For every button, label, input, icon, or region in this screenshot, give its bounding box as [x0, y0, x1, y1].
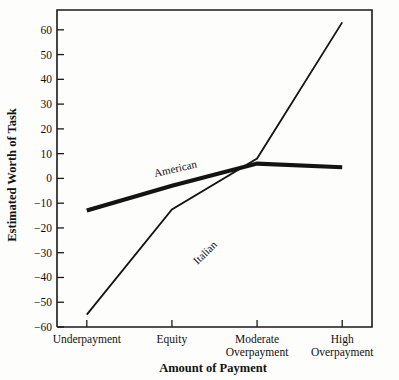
y-tick-label: −20 — [34, 222, 52, 234]
series-group — [87, 22, 342, 314]
y-tick-label: 10 — [41, 148, 53, 160]
y-tick-label: 60 — [41, 24, 53, 36]
y-tick-label: 50 — [41, 49, 53, 61]
y-tick-label: −60 — [34, 321, 52, 333]
category-labels: UnderpaymentEquityModerateOverpaymentHig… — [53, 333, 375, 359]
x-category-label: Equity — [157, 333, 188, 346]
y-tick-label: 40 — [41, 73, 53, 85]
series-line-italian — [87, 22, 342, 314]
series-labels: AmericanItalian — [153, 157, 220, 266]
x-axis-ticks — [87, 320, 342, 327]
y-tick-label: −10 — [34, 197, 52, 209]
x-axis-title: Amount of Payment — [159, 361, 267, 375]
line-chart: −60−50−40−30−20−100102030405060 American… — [0, 0, 399, 380]
x-category-label: Moderate — [235, 333, 279, 345]
y-tick-label: 20 — [41, 123, 53, 135]
series-line-american — [87, 164, 342, 211]
x-category-label: Overpayment — [311, 346, 374, 359]
y-tick-label: −50 — [34, 296, 52, 308]
y-axis-ticks: −60−50−40−30−20−100102030405060 — [34, 24, 64, 333]
y-tick-label: −30 — [34, 247, 52, 259]
series-label-italian: Italian — [191, 238, 220, 266]
y-tick-label: 0 — [46, 172, 52, 184]
figure-container: −60−50−40−30−20−100102030405060 American… — [0, 0, 399, 380]
y-axis-title: Estimated Worth of Task — [5, 108, 19, 242]
series-label-american: American — [153, 157, 198, 179]
x-category-label: Underpayment — [53, 333, 122, 346]
x-category-label: Overpayment — [226, 346, 289, 359]
x-category-label: High — [331, 333, 354, 346]
y-tick-label: −40 — [34, 271, 52, 283]
y-tick-label: 30 — [41, 98, 53, 110]
